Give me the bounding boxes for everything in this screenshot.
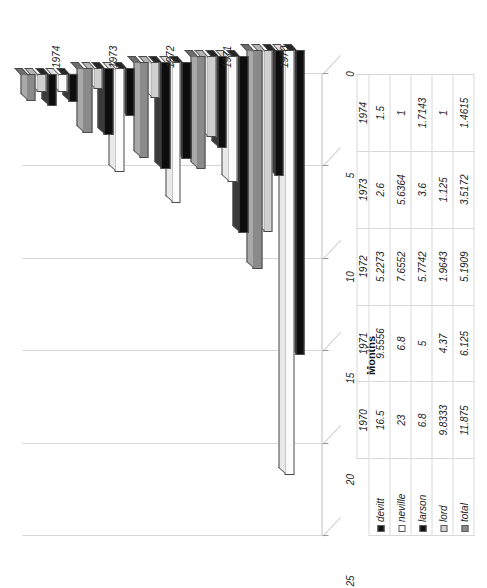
bar-body xyxy=(82,68,92,133)
bar-chart-figure: 0510152025 Months 19701971197219731974 1… xyxy=(0,0,487,588)
bar-neville-1973 xyxy=(114,68,124,172)
bar-body xyxy=(171,62,181,203)
bar-lord-1971 xyxy=(206,56,216,137)
axis-tickmark xyxy=(322,535,328,536)
table-row-header: neville xyxy=(390,459,411,536)
floor-depth-line xyxy=(322,517,340,537)
table-cell-larson-1970: 6.8 xyxy=(411,382,432,459)
bar-body xyxy=(57,74,67,92)
bar-body xyxy=(139,62,149,158)
legend-label-total: total xyxy=(458,503,469,522)
bar-larson-1972 xyxy=(160,62,170,169)
bar-body xyxy=(252,50,262,269)
legend-label-larson: larson xyxy=(416,495,427,522)
table-cell-lord-1973: 1.125 xyxy=(432,151,453,228)
category-label-1972: 1972 xyxy=(164,46,175,68)
table-cell-neville-1974: 1 xyxy=(390,75,411,152)
axis-tick-label: 20 xyxy=(344,474,355,485)
table-col-header: 1972 xyxy=(357,228,369,305)
axis-tick-label: 15 xyxy=(344,373,355,384)
category-label-1974: 1974 xyxy=(50,46,61,68)
bar-neville-1971 xyxy=(227,56,237,182)
bar-body xyxy=(227,56,237,182)
bar-devitt-1970 xyxy=(295,50,305,355)
bar-larson-1971 xyxy=(217,56,227,148)
table-header-row: 1970 1971 1972 1973 1974 xyxy=(357,75,369,536)
table-cell-devitt-1974: 1.5 xyxy=(369,75,390,152)
table-cell-total-1973: 3.5172 xyxy=(453,151,474,228)
axis-tick-label: 5 xyxy=(344,173,355,179)
table-cell-larson-1971: 5 xyxy=(411,305,432,382)
table-row: devitt16.59.55565.22732.61.5 xyxy=(369,75,390,536)
bar-body xyxy=(68,74,78,102)
bar-lord-1970 xyxy=(263,50,273,232)
axis-tickmark xyxy=(322,258,328,259)
bar-body xyxy=(125,68,135,116)
bar-larson-1974 xyxy=(47,74,57,106)
table-corner xyxy=(357,459,369,536)
bar-neville-1970 xyxy=(284,50,294,475)
legend-swatch-larson-icon xyxy=(419,525,426,532)
table-cell-total-1971: 6.125 xyxy=(453,305,474,382)
bar-devitt-1974 xyxy=(68,74,78,102)
bar-devitt-1971 xyxy=(238,56,248,233)
table-cell-lord-1974: 1 xyxy=(432,75,453,152)
table-row: lord9.83334.371.96431.1251 xyxy=(432,75,453,536)
bar-total-1970 xyxy=(252,50,262,269)
bar-total-1972 xyxy=(139,62,149,158)
table-cell-neville-1970: 23 xyxy=(390,382,411,459)
bar-body xyxy=(26,74,36,101)
table-cell-neville-1972: 7.6552 xyxy=(390,228,411,305)
category-label-1971: 1971 xyxy=(221,46,232,68)
legend-swatch-total-icon xyxy=(461,525,468,532)
bar-total-1973 xyxy=(82,68,92,133)
legend-swatch-neville-icon xyxy=(398,525,405,532)
table-row-header: devitt xyxy=(369,459,390,536)
bar-body xyxy=(150,62,160,98)
bar-body xyxy=(274,50,284,176)
table-row-header: lord xyxy=(432,459,453,536)
bar-body xyxy=(160,62,170,169)
floor-depth-line xyxy=(322,240,340,260)
table-cell-devitt-1972: 5.2273 xyxy=(369,228,390,305)
floor-depth-line xyxy=(322,147,340,167)
bar-body xyxy=(114,68,124,172)
plot-area xyxy=(22,74,322,536)
table-col-header: 1971 xyxy=(357,305,369,382)
bar-devitt-1972 xyxy=(181,62,191,159)
table-cell-lord-1971: 4.37 xyxy=(432,305,453,382)
legend-swatch-devitt-icon xyxy=(377,525,384,532)
legend-label-devitt: devitt xyxy=(374,498,385,522)
table-cell-devitt-1971: 9.5556 xyxy=(369,305,390,382)
floor-depth-line xyxy=(322,332,340,352)
bar-total-1971 xyxy=(196,56,206,169)
bar-larson-1973 xyxy=(103,68,113,135)
table-row-header: total xyxy=(453,459,474,536)
bar-body xyxy=(181,62,191,159)
axis-tickmark xyxy=(322,443,328,444)
table-col-header: 1970 xyxy=(357,382,369,459)
table-cell-larson-1972: 5.7742 xyxy=(411,228,432,305)
data-table: 1970 1971 1972 1973 1974 devitt16.59.555… xyxy=(356,74,474,536)
bar-body xyxy=(238,56,248,233)
bar-lord-1973 xyxy=(93,68,103,89)
table-cell-total-1972: 5.1909 xyxy=(453,228,474,305)
bar-body xyxy=(47,74,57,106)
bar-body xyxy=(284,50,294,475)
bar-lord-1972 xyxy=(150,62,160,98)
axis-tickmark xyxy=(322,350,328,351)
legend-label-lord: lord xyxy=(437,505,448,522)
table-cell-lord-1970: 9.8333 xyxy=(432,382,453,459)
bar-devitt-1973 xyxy=(125,68,135,116)
floor-depth-line xyxy=(322,425,340,445)
bar-body xyxy=(295,50,305,355)
table-cell-total-1974: 1.4615 xyxy=(453,75,474,152)
bar-body xyxy=(103,68,113,135)
legend-label-neville: neville xyxy=(395,494,406,522)
bar-lord-1974 xyxy=(36,74,46,92)
category-label-1973: 1973 xyxy=(107,46,118,68)
bar-body xyxy=(206,56,216,137)
floor-depth-line xyxy=(322,55,340,75)
bar-larson-1970 xyxy=(274,50,284,176)
table-cell-larson-1974: 1.7143 xyxy=(411,75,432,152)
